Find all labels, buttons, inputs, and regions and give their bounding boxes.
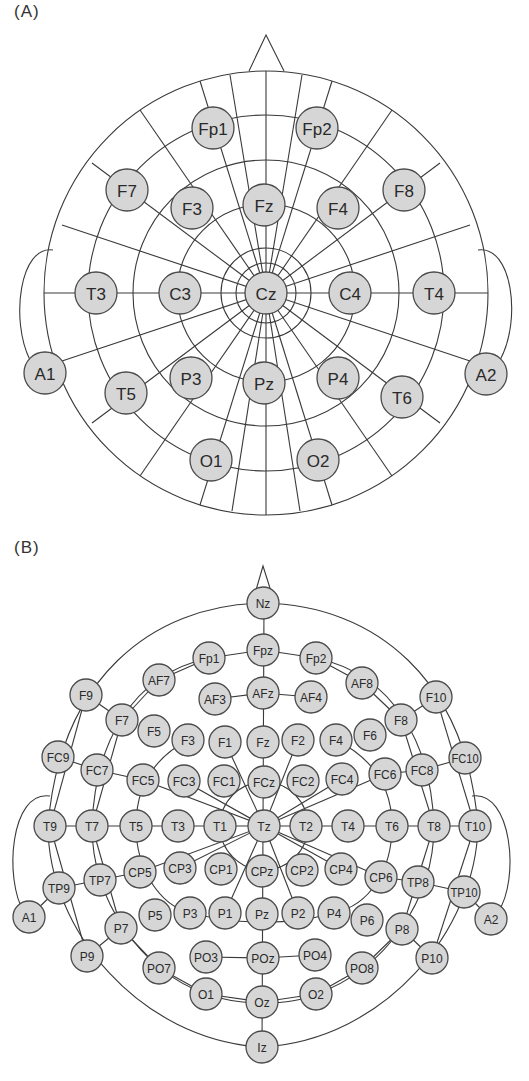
electrode-f9: F9: [70, 679, 102, 711]
electrode-t6: T6: [381, 376, 423, 418]
electrode-label: FC10: [451, 752, 479, 766]
electrode-f6: F6: [354, 719, 386, 751]
electrode-label: Cz: [256, 285, 277, 304]
electrode-f10: F10: [420, 681, 452, 713]
electrode-fp1: Fp1: [193, 642, 225, 674]
electrode-label: T1: [213, 820, 227, 834]
electrode-t7: T7: [76, 810, 108, 842]
electrode-label: P3: [183, 907, 198, 921]
electrode-label: P4: [327, 907, 342, 921]
electrode-cp3: CP3: [164, 852, 196, 884]
electrode-label: FC7: [86, 764, 109, 778]
electrode-fc9: FC9: [42, 741, 74, 773]
electrode-t4: T4: [413, 272, 455, 314]
electrode-t2: T2: [290, 810, 322, 842]
electrode-t10: T10: [459, 810, 491, 842]
eeg-diagrams: Fp1Fp2F7F3FzF4F8T3C3CzC4T4A1A2T5P3PzP4T6…: [0, 0, 529, 1081]
electrode-label: P10: [421, 952, 443, 966]
electrode-label: Fp2: [306, 652, 327, 666]
electrode-p3: P3: [170, 357, 212, 399]
electrode-label: FC1: [213, 775, 236, 789]
electrode-label: F1: [218, 736, 232, 750]
electrode-label: TP8: [407, 876, 429, 890]
electrode-fc3: FC3: [168, 765, 200, 797]
electrode-t5: T5: [120, 810, 152, 842]
electrode-p4: P4: [317, 357, 359, 399]
electrode-tp7: TP7: [84, 864, 116, 896]
electrode-c3: C3: [159, 272, 201, 314]
electrode-p5: P5: [139, 899, 171, 931]
electrode-label: TP7: [89, 874, 111, 888]
electrode-pz: Pz: [246, 898, 278, 930]
electrode-label: AF3: [204, 693, 226, 707]
electrode-tp10: TP10: [448, 876, 480, 908]
electrode-label: FC3: [173, 775, 196, 789]
electrode-fp1: Fp1: [192, 107, 234, 149]
electrode-fc7: FC7: [81, 754, 113, 786]
electrode-f8: F8: [385, 704, 417, 736]
electrode-fz: Fz: [247, 726, 279, 758]
electrode-label: F4: [328, 200, 348, 219]
electrode-cp2: CP2: [286, 854, 318, 886]
electrode-label: CP5: [128, 866, 152, 880]
electrode-a2: A2: [465, 353, 507, 395]
electrode-label: A2: [484, 913, 499, 927]
electrode-p3: P3: [174, 897, 206, 929]
electrode-fc2: FC2: [287, 765, 319, 797]
electrode-iz: Iz: [246, 1031, 278, 1063]
electrode-label: TP10: [450, 886, 478, 900]
electrode-label: F8: [394, 182, 414, 201]
electrode-f5: F5: [138, 715, 170, 747]
electrode-p1: P1: [209, 897, 241, 929]
electrode-afz: AFz: [247, 677, 279, 709]
electrode-label: T4: [424, 285, 444, 304]
electrode-label: F4: [329, 734, 343, 748]
electrode-af4: AF4: [295, 681, 327, 713]
electrode-label: PO3: [194, 951, 218, 965]
electrode-label: Fz: [256, 736, 269, 750]
electrode-po8: PO8: [346, 952, 378, 984]
electrode-f2: F2: [282, 724, 314, 756]
electrode-label: F2: [291, 734, 305, 748]
electrode-fp2: Fp2: [296, 107, 338, 149]
electrode-label: A1: [35, 365, 56, 384]
electrode-label: CP4: [329, 863, 353, 877]
electrode-label: PO8: [350, 962, 374, 976]
electrode-label: P6: [360, 914, 375, 928]
electrode-label: Pz: [254, 375, 274, 394]
electrode-label: O1: [200, 452, 223, 471]
electrode-label: O2: [307, 452, 330, 471]
electrode-label: T6: [385, 820, 399, 834]
electrode-t9: T9: [34, 810, 66, 842]
electrode-label: Fp1: [199, 652, 220, 666]
electrode-o2: O2: [297, 439, 339, 481]
electrode-f3: F3: [172, 724, 204, 756]
electrode-f3: F3: [171, 187, 213, 229]
electrode-label: AF7: [148, 674, 170, 688]
electrode-t4: T4: [332, 810, 364, 842]
electrode-label: FC4: [331, 773, 354, 787]
electrode-p2: P2: [282, 897, 314, 929]
electrode-cz: Cz: [245, 272, 287, 314]
electrode-f7: F7: [106, 169, 148, 211]
electrode-label: T5: [129, 820, 143, 834]
electrode-label: A2: [476, 366, 497, 385]
electrode-cp1: CP1: [205, 853, 237, 885]
electrode-label: P2: [291, 907, 306, 921]
electrode-fpz: Fpz: [247, 634, 279, 666]
electrode-label: T2: [299, 820, 313, 834]
electrode-f8: F8: [383, 169, 425, 211]
electrode-label: Fpz: [253, 644, 273, 658]
electrode-fc4: FC4: [326, 763, 358, 795]
electrode-label: PO4: [303, 949, 327, 963]
electrode-label: P3: [181, 370, 202, 389]
electrode-label: AFz: [252, 687, 273, 701]
electrode-a2: A2: [475, 903, 507, 935]
electrode-label: Oz: [254, 996, 269, 1010]
electrode-label: T5: [116, 385, 136, 404]
electrode-t6: T6: [376, 810, 408, 842]
electrode-label: P5: [148, 909, 163, 923]
electrode-label: T9: [43, 820, 57, 834]
electrode-label: F9: [79, 689, 93, 703]
electrode-p4: P4: [318, 897, 350, 929]
